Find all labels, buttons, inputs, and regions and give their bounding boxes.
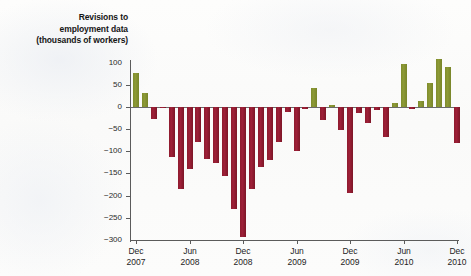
bar-aug-2009 [311,88,317,107]
x-axis-tick-month: Jun [183,246,197,256]
bar-sep-2009 [320,107,326,120]
bar-oct-2010 [436,59,442,107]
bar-feb-2008 [151,107,157,119]
bar-nov-2009 [338,107,344,130]
x-axis-tick-label: Dec2007 [110,246,162,268]
x-axis-tick-month: Jun [290,246,304,256]
bar-jan-2008 [142,93,148,107]
y-axis-tick-label: −150 [88,169,122,177]
x-axis-tick-year: 2010 [431,257,471,268]
x-axis-tick-mark [457,240,458,244]
x-axis-tick-month: Dec [342,246,357,256]
x-axis-line [130,240,459,241]
bar-may-2010 [392,103,398,107]
y-axis-tick-label: 50 [88,81,122,89]
x-axis-tick-year: 2010 [378,257,430,268]
bar-dec-2010 [454,107,460,143]
bar-apr-2009 [276,107,282,142]
bar-sep-2008 [213,107,219,163]
x-axis-tick-label: Jun2010 [378,246,430,268]
bars-layer [131,62,458,240]
y-axis-tick-label: −300 [88,236,122,244]
x-axis-tick-mark [297,240,298,244]
x-axis-tick-label: Dec2009 [324,246,376,268]
bar-aug-2008 [204,107,210,159]
bar-feb-2010 [365,107,371,123]
bar-jun-2009 [294,107,300,151]
x-axis-tick-label: Jun2009 [271,246,323,268]
y-axis-labels: 100500−50−100−150−200−250−300 [88,0,122,276]
x-axis-tick-year: 2008 [217,257,269,268]
bar-dec-2009 [347,107,353,193]
bar-mar-2010 [374,107,380,110]
x-axis-tick-month: Jun [397,246,411,256]
bar-aug-2010 [418,101,424,107]
bar-jun-2010 [401,64,407,107]
x-axis-tick-label: Dec2008 [217,246,269,268]
bar-may-2008 [178,107,184,189]
y-axis-tick-label: −200 [88,192,122,200]
bar-mar-2009 [267,107,273,160]
y-axis-tick-label: −100 [88,147,122,155]
bar-apr-2010 [383,107,389,137]
y-axis-tick-label: 100 [88,59,122,67]
bar-mar-2008 [160,107,166,108]
x-axis-tick-month: Dec [235,246,250,256]
x-axis-tick-mark [190,240,191,244]
bar-apr-2008 [169,107,175,157]
x-axis-tick-month: Dec [128,246,143,256]
x-axis-tick-year: 2009 [271,257,323,268]
bar-may-2009 [285,107,291,112]
bar-jul-2010 [409,107,415,109]
bar-oct-2008 [222,107,228,176]
x-axis-tick-mark [350,240,351,244]
x-axis-tick-month: Dec [449,246,464,256]
bar-chart: Revisions to employment data (thousands … [0,0,471,276]
bar-dec-2008 [240,107,246,237]
x-axis-tick-mark [136,240,137,244]
bar-jul-2008 [195,107,201,142]
x-axis-tick-year: 2008 [164,257,216,268]
bar-jan-2010 [356,107,362,113]
x-axis-tick-year: 2009 [324,257,376,268]
bar-jul-2009 [302,107,308,109]
y-axis-tick-label: −50 [88,125,122,133]
bar-nov-2010 [445,67,451,107]
bar-sep-2010 [427,83,433,107]
x-axis-tick-mark [404,240,405,244]
x-axis-tick-label: Dec2010 [431,246,471,268]
y-axis-tick-label: −250 [88,214,122,222]
bar-jun-2008 [187,107,193,169]
y-axis-tick-label: 0 [88,103,122,111]
x-axis-tick-mark [243,240,244,244]
bar-oct-2009 [329,105,335,107]
bar-feb-2009 [258,107,264,167]
bar-nov-2008 [231,107,237,209]
x-axis-tick-year: 2007 [110,257,162,268]
bar-dec-2007 [133,73,139,107]
bar-jan-2009 [249,107,255,189]
x-axis-tick-label: Jun2008 [164,246,216,268]
